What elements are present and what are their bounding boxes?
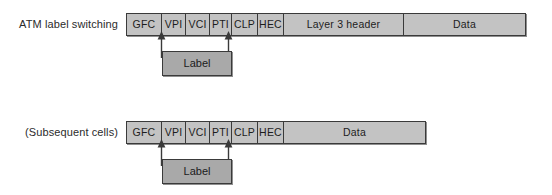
cell-hec: HEC (258, 14, 284, 35)
label-box-top: Label (162, 51, 232, 76)
cell-pti: PTI (210, 14, 232, 35)
cell-pti-subsequent: PTI (210, 122, 232, 143)
cell-data: Data (404, 14, 525, 35)
cell-vci-subsequent: VCI (186, 122, 210, 143)
cell-vpi: VPI (162, 14, 186, 35)
row-label-atm-label-switching: ATM label switching (0, 19, 118, 30)
label-box-top-text: Label (184, 58, 211, 69)
cell-gfc: GFC (127, 14, 162, 35)
atm-cell-strip-bottom: GFC VPI VCI PTI CLP HEC Data (126, 121, 426, 144)
label-box-bottom-text: Label (184, 166, 211, 177)
row-label-subsequent-cells: (Subsequent cells) (0, 127, 118, 138)
cell-vpi-subsequent: VPI (162, 122, 186, 143)
cell-clp-subsequent: CLP (232, 122, 258, 143)
cell-layer3-header: Layer 3 header (284, 14, 404, 35)
cell-vci: VCI (186, 14, 210, 35)
cell-hec-subsequent: HEC (258, 122, 284, 143)
cell-data-subsequent: Data (284, 122, 425, 143)
atm-label-switching-diagram: ATM label switching GFC VPI VCI PTI CLP … (0, 0, 552, 195)
cell-gfc-subsequent: GFC (127, 122, 162, 143)
cell-clp: CLP (232, 14, 258, 35)
atm-cell-strip-top: GFC VPI VCI PTI CLP HEC Layer 3 header D… (126, 13, 526, 36)
label-box-bottom: Label (162, 159, 232, 184)
